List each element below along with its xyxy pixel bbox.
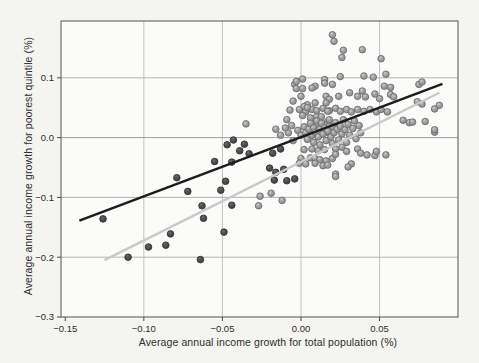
light-gray-point	[329, 81, 336, 88]
light-gray-point	[359, 46, 366, 53]
light-gray-point	[279, 197, 286, 204]
light-gray-point	[419, 79, 426, 86]
light-gray-point	[290, 98, 297, 105]
light-gray-point	[287, 107, 294, 114]
light-gray-point	[346, 90, 353, 97]
dark-gray-point	[291, 176, 298, 183]
light-gray-point	[364, 152, 371, 159]
dark-gray-point	[211, 158, 218, 165]
dark-gray-point	[167, 231, 174, 238]
light-gray-point	[384, 109, 391, 116]
dark-gray-point	[224, 142, 231, 149]
light-gray-point	[370, 74, 377, 81]
light-gray-point	[373, 148, 380, 155]
light-gray-point	[362, 94, 369, 101]
x-tick-label: 0.05	[370, 323, 389, 334]
light-gray-point	[383, 71, 390, 78]
dark-gray-point	[266, 165, 273, 172]
dark-gray-point	[125, 254, 132, 261]
x-tick-label: −0.15	[53, 323, 77, 334]
light-gray-point	[282, 125, 289, 132]
x-tick-label: 0.00	[292, 323, 311, 334]
y-tick-label: −0.1	[35, 192, 54, 203]
dark-gray-point	[269, 150, 276, 157]
light-gray-point	[431, 106, 438, 113]
light-gray-point	[299, 85, 306, 92]
light-gray-point	[378, 55, 385, 62]
dark-gray-point	[100, 216, 107, 223]
y-tick-label: 0.0	[41, 132, 54, 143]
light-gray-point	[340, 47, 347, 54]
light-gray-point	[329, 32, 336, 39]
dark-gray-point	[197, 256, 204, 263]
light-gray-point	[324, 108, 331, 115]
light-gray-point	[273, 126, 280, 133]
light-gray-point	[293, 85, 300, 92]
light-gray-point	[337, 73, 344, 80]
light-gray-point	[354, 106, 361, 113]
light-gray-point	[354, 93, 361, 100]
light-gray-point	[332, 151, 339, 158]
light-gray-point	[422, 118, 429, 125]
light-gray-point	[301, 146, 308, 153]
dark-gray-point	[241, 141, 248, 148]
dark-gray-point	[229, 202, 236, 209]
light-gray-point	[376, 95, 383, 102]
light-gray-point	[326, 116, 333, 123]
scatter-plot-canvas: −0.15−0.10−0.050.000.050.10.0−0.1−0.2−0.…	[0, 0, 479, 363]
dark-gray-point	[200, 215, 207, 222]
dark-gray-point	[199, 203, 206, 210]
light-gray-point	[317, 142, 324, 149]
light-gray-point	[284, 116, 291, 123]
light-gray-point	[381, 83, 388, 90]
light-gray-point	[390, 94, 397, 101]
dark-gray-point	[284, 177, 291, 184]
light-gray-point	[331, 38, 338, 45]
x-tick-label: −0.05	[210, 323, 234, 334]
light-gray-point	[383, 152, 390, 159]
y-tick-label: −0.2	[35, 252, 54, 263]
light-gray-point	[293, 78, 300, 85]
dark-gray-point	[218, 187, 225, 194]
light-gray-point	[309, 85, 316, 92]
dark-gray-point	[236, 148, 243, 155]
light-gray-point	[268, 190, 275, 197]
scatter-figure: Average annual income growth for poorest…	[0, 0, 479, 363]
light-gray-point	[243, 121, 250, 128]
x-tick-label: −0.10	[132, 323, 156, 334]
dark-gray-point	[230, 137, 237, 144]
light-gray-point	[339, 54, 346, 61]
light-gray-point	[312, 100, 319, 107]
light-gray-point	[357, 150, 364, 157]
light-gray-point	[431, 127, 438, 134]
light-gray-point	[356, 122, 363, 129]
light-gray-point	[348, 109, 355, 116]
light-gray-point	[361, 73, 368, 80]
dark-gray-point	[221, 229, 228, 236]
light-gray-point	[309, 146, 316, 153]
dark-gray-point	[222, 178, 229, 185]
light-gray-point	[257, 193, 264, 200]
light-gray-point	[335, 93, 342, 100]
y-tick-label: 0.1	[41, 72, 54, 83]
light-gray-point	[255, 203, 262, 210]
light-gray-point	[350, 125, 357, 132]
light-gray-point	[324, 162, 331, 169]
dark-gray-point	[185, 188, 192, 195]
dark-gray-point	[145, 244, 152, 251]
light-gray-point	[400, 117, 407, 124]
light-gray-point	[298, 93, 305, 100]
x-axis-title: Average annual income growth for total p…	[100, 336, 436, 348]
light-gray-point	[409, 119, 416, 126]
light-gray-point	[387, 84, 394, 91]
light-gray-point	[332, 173, 339, 180]
dark-gray-point	[271, 177, 278, 184]
light-gray-point	[310, 139, 317, 146]
light-gray-point	[299, 76, 306, 83]
dark-gray-point	[174, 174, 181, 181]
y-tick-label: −0.3	[35, 311, 54, 322]
dark-gray-point	[163, 242, 170, 249]
light-gray-point	[299, 112, 306, 119]
light-gray-point	[345, 164, 352, 171]
light-gray-point	[321, 80, 328, 87]
